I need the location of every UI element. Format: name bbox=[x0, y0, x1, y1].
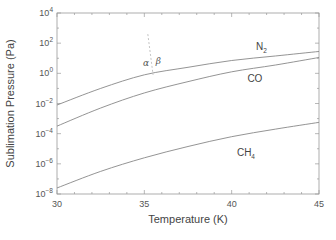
x-axis-title: Temperature (K) bbox=[148, 213, 227, 225]
alpha-label: α bbox=[143, 58, 149, 68]
y-tick-labels: 10410210010−210−410−610−8 bbox=[36, 6, 54, 199]
alpha-beta-transition-line bbox=[148, 34, 153, 75]
y-tick-label: 104 bbox=[39, 6, 53, 18]
curves: N2COCH4 bbox=[57, 41, 319, 188]
sublimation-pressure-chart: 30354045 10410210010−210−410−610−8 N2COC… bbox=[0, 0, 336, 240]
beta-label: β bbox=[155, 56, 161, 66]
annotations: αβ bbox=[143, 34, 161, 75]
y-axis-title: Sublimation Pressure (Pa) bbox=[4, 39, 16, 167]
curve-n2 bbox=[57, 51, 319, 105]
x-tick-labels: 30354045 bbox=[52, 199, 324, 209]
y-tick-label: 100 bbox=[39, 66, 53, 78]
curve-co bbox=[57, 57, 319, 126]
y-tick-label: 10−2 bbox=[36, 97, 54, 109]
x-tick-label: 40 bbox=[227, 199, 237, 209]
axis-ticks bbox=[57, 13, 319, 194]
y-tick-label: 10−8 bbox=[36, 187, 54, 199]
curve-label-n2: N2 bbox=[256, 41, 267, 54]
y-tick-label: 10−6 bbox=[36, 157, 54, 169]
curve-ch4 bbox=[57, 122, 319, 188]
plot-frame bbox=[57, 13, 319, 194]
y-tick-label: 10−4 bbox=[36, 127, 54, 139]
curve-label-ch4: CH4 bbox=[237, 147, 255, 160]
x-tick-label: 30 bbox=[52, 199, 62, 209]
x-tick-label: 35 bbox=[139, 199, 149, 209]
y-tick-label: 102 bbox=[39, 36, 53, 48]
curve-label-co: CO bbox=[247, 73, 262, 84]
x-tick-label: 45 bbox=[314, 199, 324, 209]
